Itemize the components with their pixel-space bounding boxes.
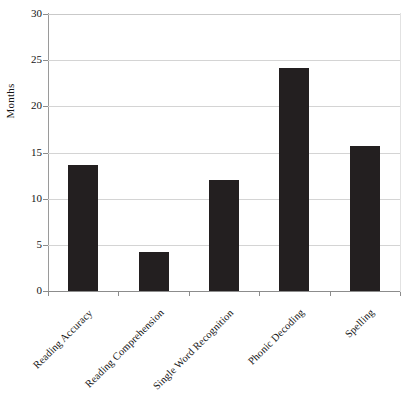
bar xyxy=(68,165,98,291)
y-axis-tick-mark xyxy=(43,60,48,61)
y-axis-tick-label: 15 xyxy=(16,147,42,158)
x-axis-tick-mark xyxy=(259,292,260,296)
x-axis-tick-label: Spelling xyxy=(343,307,377,341)
x-axis-tick-label: Reading Comprehension xyxy=(83,307,167,391)
bar xyxy=(279,68,309,291)
y-axis-tick-label: 5 xyxy=(16,239,42,250)
y-axis-tick-mark xyxy=(43,199,48,200)
bar xyxy=(350,146,380,291)
x-axis-tick-mark xyxy=(330,292,331,296)
x-axis-tick-mark xyxy=(48,292,49,296)
y-axis-tick-label: 10 xyxy=(16,193,42,204)
bar xyxy=(139,252,169,291)
y-axis-tick-label: 20 xyxy=(16,100,42,111)
y-axis-tick-label: 25 xyxy=(16,54,42,65)
x-axis-tick-label: Single Word Recognition xyxy=(151,307,236,392)
x-axis-tick-labels: Reading AccuracyReading ComprehensionSin… xyxy=(0,291,414,402)
bars-container xyxy=(48,14,401,291)
x-axis-tick-label: Reading Accuracy xyxy=(31,307,95,371)
y-axis-tick-mark xyxy=(43,245,48,246)
bar-chart: Months 051015202530 Reading AccuracyRead… xyxy=(0,0,414,402)
y-axis-tick-mark xyxy=(43,106,48,107)
y-axis-tick-label: 30 xyxy=(16,8,42,19)
x-axis-tick-mark xyxy=(189,292,190,296)
y-axis-tick-mark xyxy=(43,153,48,154)
x-axis-tick-label: Phonic Decoding xyxy=(246,307,307,368)
y-axis-tick-mark xyxy=(43,14,48,15)
bar xyxy=(209,180,239,291)
y-axis-tick-labels: 051015202530 xyxy=(14,0,42,300)
x-axis-tick-mark xyxy=(400,292,401,296)
x-axis-tick-mark xyxy=(118,292,119,296)
